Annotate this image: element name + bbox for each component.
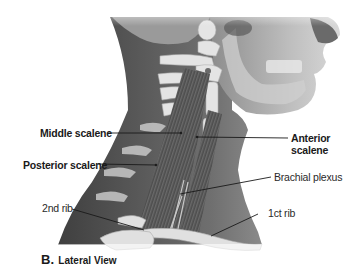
figure-caption: B. Lateral View [41, 252, 117, 267]
label-posterior-scalene: Posterior scalene [23, 159, 107, 171]
view-title: Lateral View [58, 255, 116, 266]
label-second-rib: 2nd rib [42, 202, 73, 214]
teeth [266, 60, 302, 73]
view-letter: B. [41, 252, 54, 267]
label-brachial-plexus: Brachial plexus [274, 171, 342, 183]
label-anterior-scalene-line1: Anterior [291, 132, 330, 144]
label-middle-scalene: Middle scalene [40, 127, 112, 139]
label-first-rib: 1ct rib [268, 207, 295, 219]
scalene-anatomy-figure: Middle scalene Posterior scalene Anterio… [0, 0, 354, 275]
label-anterior-scalene-line2: scalene [291, 144, 328, 156]
